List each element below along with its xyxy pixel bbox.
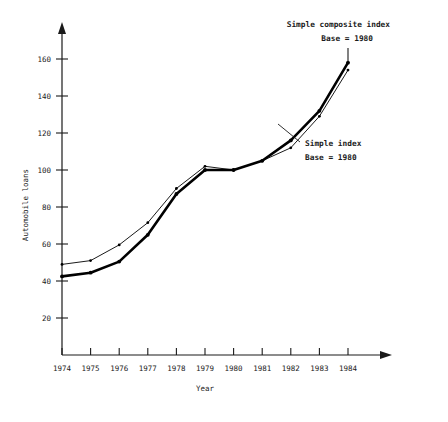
annotation-leaders	[278, 48, 348, 142]
y-tick-label: 160	[37, 55, 51, 64]
data-point	[289, 146, 292, 149]
x-tick-label: 1975	[82, 364, 100, 373]
data-point	[318, 115, 321, 118]
data-point	[117, 260, 121, 264]
x-tick-label: 1981	[253, 364, 271, 373]
data-point	[118, 244, 121, 247]
x-tick-label: 1976	[110, 364, 129, 373]
data-point	[89, 259, 92, 262]
data-point	[261, 159, 264, 162]
series-group	[60, 61, 350, 278]
y-tick-label: 80	[42, 203, 52, 212]
y-tick-label: 20	[42, 314, 52, 323]
x-tick-label: 1983	[310, 364, 328, 373]
data-point	[318, 109, 322, 113]
x-tick-label: 1977	[139, 364, 157, 373]
annotation-simple: Simple index Base = 1980	[305, 139, 362, 162]
annotation-composite: Simple composite index Base = 1980	[287, 20, 391, 43]
line-chart: 20406080100120140160 1974197519761977197…	[0, 0, 448, 422]
x-axis	[62, 351, 392, 359]
x-axis-title: Year	[196, 384, 215, 393]
y-tick-group: 20406080100120140160	[37, 55, 68, 323]
y-tick-label: 40	[42, 277, 52, 286]
y-tick-label: 60	[42, 240, 52, 249]
x-tick-group: 1974197519761977197819791980198119821983…	[53, 348, 358, 373]
data-point	[203, 168, 207, 172]
x-tick-label: 1979	[196, 364, 214, 373]
y-tick-label: 100	[37, 166, 51, 175]
y-axis	[58, 22, 66, 355]
x-tick-label: 1978	[167, 364, 186, 373]
y-axis-title: Automobile loans	[21, 169, 30, 241]
data-point	[60, 275, 64, 279]
data-point	[347, 69, 350, 72]
annotation-simple-line1: Simple index	[305, 139, 362, 148]
y-tick-label: 120	[37, 129, 51, 138]
annotation-simple-line2: Base = 1980	[305, 153, 357, 162]
y-tick-label: 140	[37, 92, 51, 101]
data-point	[146, 221, 149, 224]
data-point	[204, 165, 207, 168]
annotation-composite-line2: Base = 1980	[321, 34, 373, 43]
x-tick-label: 1984	[339, 364, 358, 373]
data-point	[146, 233, 150, 237]
x-tick-label: 1974	[53, 364, 72, 373]
annotation-composite-line1: Simple composite index	[287, 20, 391, 29]
x-tick-label: 1982	[282, 364, 300, 373]
data-point	[175, 192, 179, 196]
chart-container: 20406080100120140160 1974197519761977197…	[0, 0, 448, 422]
x-tick-label: 1980	[225, 364, 244, 373]
data-point	[175, 187, 178, 190]
data-point	[232, 169, 235, 172]
data-point	[289, 139, 293, 143]
data-point	[61, 263, 64, 266]
data-point	[89, 271, 93, 275]
